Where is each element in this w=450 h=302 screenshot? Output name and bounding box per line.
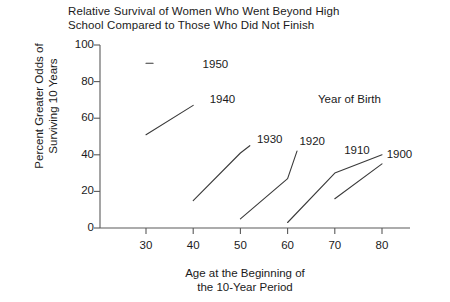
series-label-1910: 1910 bbox=[344, 144, 370, 156]
series-label-1920: 1920 bbox=[299, 135, 325, 147]
series-label-1950: 1950 bbox=[203, 58, 229, 70]
axes bbox=[94, 45, 410, 234]
y-tick-label: 40 bbox=[56, 148, 94, 160]
series-label-1930: 1930 bbox=[257, 133, 283, 145]
y-tick-label: 80 bbox=[56, 75, 94, 87]
series-line-1900 bbox=[335, 164, 382, 199]
series-line-1910 bbox=[288, 155, 382, 223]
x-tick-label: 80 bbox=[367, 239, 397, 251]
y-tick-label: 100 bbox=[56, 38, 94, 50]
series-line-1920 bbox=[240, 151, 297, 219]
chart-figure: Relative Survival of Women Who Went Beyo… bbox=[0, 0, 450, 302]
y-tick-label: 20 bbox=[56, 184, 94, 196]
x-tick-label: 50 bbox=[225, 239, 255, 251]
x-tick-label: 60 bbox=[273, 239, 303, 251]
series-line-1940 bbox=[146, 105, 193, 134]
y-tick-label: 0 bbox=[56, 221, 94, 233]
y-tick-label: 60 bbox=[56, 111, 94, 123]
x-tick-label: 40 bbox=[178, 239, 208, 251]
x-tick-label: 70 bbox=[320, 239, 350, 251]
series-line-1930 bbox=[193, 146, 250, 201]
x-tick-label: 30 bbox=[131, 239, 161, 251]
series-label-1900: 1900 bbox=[387, 148, 413, 160]
series-label-1940: 1940 bbox=[210, 93, 236, 105]
